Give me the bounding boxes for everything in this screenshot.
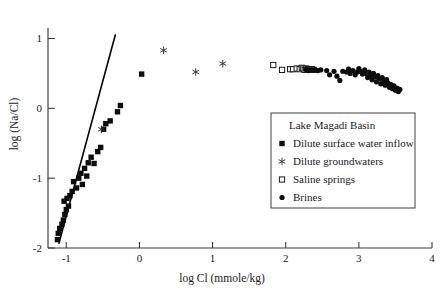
data-point — [88, 155, 93, 160]
data-point — [78, 171, 83, 176]
data-point — [279, 67, 284, 72]
y-tick-label: 1 — [37, 32, 43, 44]
data-point — [66, 203, 71, 208]
data-point — [327, 72, 332, 77]
scatter-plot: -101234 -2-101 log Cl (mmole/kg) log (Na… — [0, 0, 444, 295]
series-dilute-surface-water-inflow — [55, 71, 145, 242]
x-tick-label: 4 — [429, 252, 435, 264]
x-tick-label: 1 — [210, 252, 216, 264]
data-point — [55, 237, 60, 242]
x-tick-label: -1 — [62, 252, 71, 264]
x-axis-ticks: -101234 — [62, 242, 436, 264]
series-brines — [304, 66, 403, 94]
data-point — [98, 145, 103, 150]
data-point — [271, 62, 276, 67]
data-point — [161, 47, 167, 54]
data-point — [324, 68, 329, 73]
legend-entry: Dilute surface water inflow — [279, 137, 413, 149]
data-point — [118, 103, 123, 108]
y-axis-title: log (Na/Cl) — [8, 97, 21, 150]
data-point — [337, 78, 342, 83]
legend-label: Dilute surface water inflow — [293, 137, 414, 149]
data-point — [62, 212, 67, 217]
data-point — [91, 161, 96, 166]
x-tick-label: 0 — [137, 252, 143, 264]
data-point — [334, 74, 339, 79]
y-tick-label: 0 — [37, 102, 43, 114]
legend-marker-filled-square-icon — [279, 141, 284, 146]
y-tick-label: -2 — [33, 242, 42, 254]
data-point — [220, 60, 226, 67]
data-point — [74, 185, 79, 190]
legend-marker-filled-circle-icon — [279, 195, 284, 200]
series-dilute-groundwaters — [98, 47, 225, 133]
x-tick-label: 3 — [356, 252, 362, 264]
data-point — [56, 231, 61, 236]
data-point — [86, 160, 91, 165]
legend-entry: Dilute groundwaters — [279, 155, 383, 167]
legend-label: Brines — [293, 191, 322, 203]
x-axis-title: log Cl (mmole/kg) — [179, 272, 265, 285]
data-point — [331, 69, 336, 74]
data-point — [84, 173, 89, 178]
data-point — [318, 67, 323, 72]
legend-title: Lake Magadi Basin — [289, 119, 376, 131]
legend: Lake Magadi Basin Dilute surface water i… — [271, 113, 415, 208]
chart-figure: -101234 -2-101 log Cl (mmole/kg) log (Na… — [0, 0, 444, 295]
x-tick-label: 2 — [283, 252, 289, 264]
data-point — [139, 71, 144, 76]
data-point — [115, 109, 120, 114]
data-point — [193, 69, 199, 76]
data-point — [76, 175, 81, 180]
data-point — [80, 182, 85, 187]
data-point — [397, 87, 402, 92]
data-point — [82, 166, 87, 171]
y-tick-label: -1 — [33, 172, 42, 184]
data-point — [61, 217, 66, 222]
y-axis-ticks: -2-101 — [33, 32, 55, 254]
data-point — [107, 118, 112, 123]
legend-marker-open-square-icon — [279, 177, 284, 182]
legend-label: Saline springs — [293, 173, 355, 185]
data-point — [71, 179, 76, 184]
legend-label: Dilute groundwaters — [293, 155, 383, 167]
